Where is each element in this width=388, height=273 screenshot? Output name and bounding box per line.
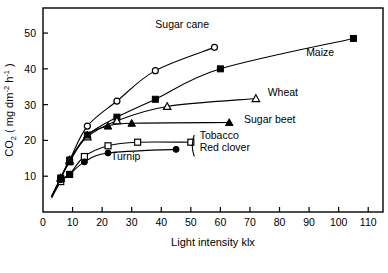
x-axis-title: Light intensity klx [171, 236, 255, 248]
series-label-sugar-beet: Sugar beet [244, 113, 295, 125]
y-tick-label: 30 [24, 99, 36, 111]
series-sugar-cane: Sugar cane [52, 18, 218, 196]
series-label-red-clover: Red clover [200, 141, 251, 153]
y-tick-label: 20 [24, 134, 36, 146]
series-label-sugar-cane: Sugar cane [155, 18, 209, 30]
data-point-marker [135, 139, 141, 145]
x-tick-label: 90 [303, 216, 315, 228]
x-tick-label: 30 [126, 216, 138, 228]
data-point-marker [58, 177, 64, 183]
x-tick-label: 100 [330, 216, 348, 228]
x-tick-label: 0 [40, 216, 46, 228]
photosynthesis-light-response-chart: 01020304050607080901001101020304050Light… [0, 0, 388, 273]
x-tick-label: 80 [274, 216, 286, 228]
chart-canvas: 01020304050607080901001101020304050Light… [0, 0, 388, 273]
data-point-marker [152, 68, 158, 74]
series-label-tobacco: Tobacco [200, 129, 239, 141]
data-point-marker [252, 95, 260, 102]
series-wheat: Wheat [52, 86, 298, 196]
y-axis-title: CO2 ( mg dm-2 h-1 ) [2, 63, 18, 156]
x-tick-label: 50 [185, 216, 197, 228]
series-label-maize: Maize [306, 46, 334, 58]
data-point-marker [217, 66, 223, 72]
data-point-marker [81, 159, 87, 165]
x-tick-label: 40 [155, 216, 167, 228]
y-tick-label: 50 [24, 27, 36, 39]
series-label-turnip: Turnip [111, 150, 141, 162]
data-point-marker [173, 146, 179, 152]
plot-frame [43, 8, 383, 212]
x-tick-label: 70 [244, 216, 256, 228]
y-tick-label: 10 [24, 170, 36, 182]
data-point-marker [114, 98, 120, 104]
data-point-marker [67, 171, 73, 177]
series-turnip: Turnip [111, 150, 141, 162]
data-point-marker [152, 96, 158, 102]
data-point-marker [84, 123, 90, 129]
series-red-clover: Red clover [52, 141, 251, 196]
x-tick-label: 20 [96, 216, 108, 228]
data-point-marker [211, 44, 217, 50]
x-tick-label: 10 [67, 216, 79, 228]
x-tick-label: 110 [360, 216, 377, 228]
y-tick-label: 40 [24, 63, 36, 75]
x-tick-label: 60 [215, 216, 227, 228]
series-label-wheat: Wheat [268, 86, 298, 98]
data-point-marker [105, 143, 111, 149]
data-point-marker [350, 35, 356, 41]
